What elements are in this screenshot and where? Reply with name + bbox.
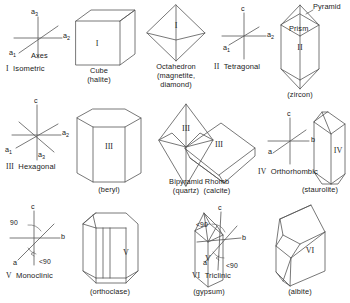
- system-label-isometric: I Isometric: [6, 65, 45, 73]
- angle-label-lt90-triclinic-upper: <90: [196, 221, 208, 229]
- axis-subscript-3-hex: 3: [42, 154, 45, 160]
- mineral-halite: (halite): [87, 76, 110, 84]
- crystal-systems-figure: a3 a2 a1 Axes I Isometric I Cube (halite…: [0, 0, 350, 303]
- albite-drawing: [276, 205, 325, 286]
- mineral-quartz: (quartz): [173, 187, 199, 195]
- mineral-staurolite: (staurolite): [302, 186, 338, 194]
- axis-label-a3-hexagonal: a3: [38, 151, 45, 162]
- hexagonal-axes-drawing: [12, 105, 61, 160]
- face-numeral-albite: VI: [306, 246, 315, 255]
- axis-label-c-triclinic: c: [218, 204, 222, 212]
- mineral-diamond: diamond): [160, 81, 192, 89]
- angle-label-90-monoclinic: 90: [10, 219, 18, 227]
- mineral-zircon: (zircon): [287, 91, 312, 99]
- axis-label-b-triclinic: b: [242, 234, 246, 242]
- face-numeral-zircon: II: [297, 43, 302, 52]
- face-numeral-staurolite: IV: [334, 146, 343, 155]
- angle-label-lt90-triclinic-lower: <90: [226, 262, 238, 270]
- axis-label-a-orthorhombic: a: [268, 148, 272, 156]
- system-numeral-v: V: [6, 271, 12, 280]
- orthorhombic-axes-drawing: [268, 118, 309, 164]
- axis-subscript-1-tet: 1: [227, 47, 230, 53]
- face-numeral-rhomb: III: [215, 140, 223, 149]
- axes-caption: Axes: [31, 52, 48, 60]
- axis-subscript-1-hex: 1: [9, 149, 12, 155]
- axis-label-c-orthorhombic: c: [287, 110, 291, 118]
- system-numeral-i: I: [6, 64, 9, 73]
- axis-subscript-3: 3: [35, 11, 38, 17]
- axis-label-a1-tetragonal: a1: [223, 44, 230, 55]
- face-numeral-octahedron: I: [175, 21, 178, 30]
- axis-label-c-monoclinic: c: [31, 203, 35, 211]
- system-label-orthorhombic: IV Orthorhombic: [258, 168, 318, 176]
- form-name-prism: Prism: [289, 25, 308, 33]
- axis-label-a2: a2: [63, 32, 70, 43]
- axis-label-b-orthorhombic: b: [311, 136, 315, 144]
- mineral-gypsum: (gypsum): [193, 288, 225, 296]
- system-label-hexagonal: III Hexagonal: [6, 163, 56, 171]
- axis-label-a2-hexagonal: a2: [62, 129, 69, 140]
- mineral-orthoclase: (orthoclase): [90, 288, 130, 296]
- form-name-pyramid: Pyramid: [313, 3, 341, 11]
- face-numeral-cube: I: [96, 39, 99, 48]
- system-numeral-iv: IV: [258, 167, 266, 176]
- cube-drawing: [76, 10, 135, 65]
- axis-subscript-2: 2: [67, 35, 70, 41]
- system-label-tetragonal: II Tetragonal: [214, 63, 260, 71]
- face-numeral-beryl: III: [105, 142, 113, 151]
- angle-label-lt90-monoclinic: <90: [39, 258, 51, 266]
- axis-label-a1-hexagonal: a1: [5, 146, 12, 157]
- axis-subscript-2-hex: 2: [66, 132, 69, 138]
- rhomb-drawing: [185, 123, 255, 183]
- axis-label-b-monoclinic: b: [61, 233, 65, 241]
- axis-label-a-triclinic: a: [203, 259, 207, 267]
- system-numeral-ii: II: [214, 62, 219, 71]
- axis-label-a-monoclinic: a: [13, 259, 17, 267]
- axis-subscript-1: 1: [13, 52, 16, 58]
- system-label-monoclinic: V Monoclinic: [6, 272, 53, 280]
- face-numeral-bipyramid: III: [182, 124, 190, 133]
- axis-subscript-2-tet: 2: [271, 34, 274, 40]
- mineral-albite: (albite): [288, 288, 311, 296]
- axis-label-c-hexagonal: c: [34, 97, 38, 105]
- axis-label-a3: a3: [31, 8, 38, 19]
- mineral-beryl: (beryl): [98, 186, 120, 194]
- axis-label-a1: a1: [9, 49, 16, 60]
- bipyramid-drawing: [159, 104, 213, 186]
- system-numeral-vi: VI: [192, 271, 200, 280]
- mineral-calcite: (calcite): [204, 187, 231, 195]
- face-numeral-orthoclase: V: [123, 248, 129, 257]
- system-numeral-iii: III: [6, 162, 14, 171]
- system-label-triclinic: VI Triclinic: [192, 272, 231, 280]
- axis-label-c-tetragonal: c: [241, 5, 245, 13]
- octahedron-drawing: [147, 5, 205, 61]
- axis-label-a2-tetragonal: a2: [267, 31, 274, 42]
- orthoclase-drawing: [83, 213, 138, 283]
